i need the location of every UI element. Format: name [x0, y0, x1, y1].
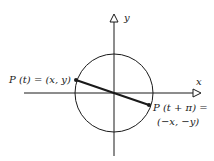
- point-p-t-plus-pi: [147, 103, 151, 107]
- x-axis-label: x: [196, 76, 202, 87]
- point-p-t-plus-pi-label-line2: (−x, −y): [157, 116, 199, 127]
- point-p-t-plus-pi-label-line1: P (t + π) =: [152, 102, 208, 113]
- x-axis-arrow-icon: [193, 89, 201, 97]
- y-axis-arrow-icon: [110, 14, 118, 22]
- point-p-t-label: P (t) = (x, y): [8, 74, 71, 85]
- unit-circle-diagram: y x P (t) = (x, y) P (t + π) = (−x, −y): [0, 0, 214, 161]
- y-axis-label: y: [123, 12, 130, 23]
- point-p-t: [74, 78, 78, 82]
